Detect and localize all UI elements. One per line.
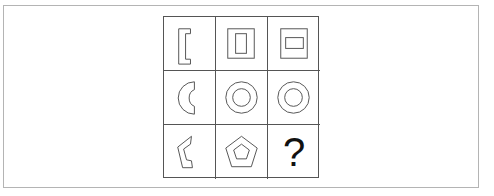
nested-rectangles-tall-icon [216, 17, 267, 70]
nested-rectangles-wide-icon [268, 17, 320, 70]
cell-r3-c2 [216, 125, 268, 179]
cell-r1-c3 [268, 17, 320, 71]
cell-r1-c1 [164, 17, 216, 71]
question-mark: ? [268, 125, 320, 179]
nested-pentagons-icon [216, 125, 267, 179]
concentric-circles-icon [268, 71, 320, 124]
cell-r2-c1 [164, 71, 216, 125]
cell-r1-c2 [216, 17, 268, 71]
bracket-shape-icon [164, 17, 215, 70]
cell-r3-c3: ? [268, 125, 320, 179]
cell-r3-c1 [164, 125, 216, 179]
concentric-circles-icon [216, 71, 267, 124]
partial-pentagon-icon [164, 125, 215, 179]
cell-r2-c3 [268, 71, 320, 125]
c-shape-ring-icon [164, 71, 215, 124]
puzzle-grid: ? [163, 16, 319, 178]
cell-r2-c2 [216, 71, 268, 125]
